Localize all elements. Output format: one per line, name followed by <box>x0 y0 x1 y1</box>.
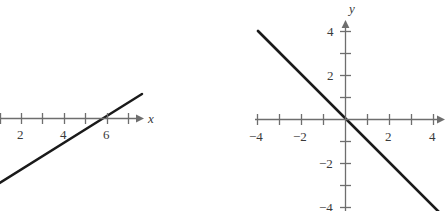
left-x-tick-label-2: 2 <box>17 128 24 141</box>
right-x-tick-label-4: 4 <box>429 130 436 143</box>
right-y-tick-label-neg2: −2 <box>319 157 333 170</box>
right-y-axis-label: y <box>349 2 355 15</box>
left-x-tick-label-6: 6 <box>103 128 110 141</box>
right-graph-canvas <box>223 0 446 211</box>
right-y-tick-label-4: 4 <box>327 25 334 38</box>
left-x-axis-label: x <box>148 112 154 125</box>
right-x-tick-label-neg2: −2 <box>293 130 307 143</box>
left-graph-canvas <box>0 0 223 211</box>
x-axis-arrow-icon <box>136 115 144 123</box>
right-x-tick-label-neg4: −4 <box>249 130 263 143</box>
right-y-tick-label-2: 2 <box>327 69 334 82</box>
y-axis-arrow-icon <box>342 20 350 28</box>
right-graph-panel: −4 −2 2 4 4 2 −2 −4 y <box>223 0 446 211</box>
right-graph-line <box>258 31 441 211</box>
right-x-tick-label-2: 2 <box>385 130 392 143</box>
right-y-tick-label-neg4: −4 <box>319 201 333 211</box>
x-axis-arrow-icon <box>437 116 445 124</box>
left-graph-panel: 2 4 6 x <box>0 0 223 211</box>
two-graph-figure: 2 4 6 x <box>0 0 446 211</box>
left-x-tick-label-4: 4 <box>60 128 67 141</box>
